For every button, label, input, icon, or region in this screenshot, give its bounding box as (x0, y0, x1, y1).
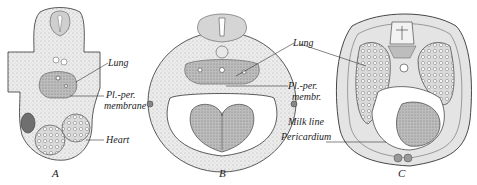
panel-letter-a: A (52, 167, 59, 179)
panel-letter-b: B (219, 167, 226, 179)
label-a-membrane: membrane (104, 101, 146, 111)
label-b-pericardium: Pericardium (281, 132, 331, 142)
label-b-membr: membr. (292, 92, 321, 102)
label-b-milk-line: Milk line (288, 117, 324, 127)
section-c-drawing (300, 14, 471, 166)
label-a-pl-per: Pl.-per. (106, 90, 135, 100)
label-a-heart: Heart (106, 135, 129, 145)
section-b-drawing (147, 14, 297, 172)
section-a-drawing (8, 8, 108, 161)
label-b-pl-per: Pl.-per. (288, 81, 317, 91)
embryo-cross-section-figure: Lung Pl.-per. membrane Heart A Lung Pl.-… (0, 0, 477, 185)
figure-drawing (0, 0, 477, 185)
label-a-lung: Lung (108, 58, 129, 68)
label-b-lung: Lung (293, 38, 314, 48)
panel-letter-c: C (398, 167, 405, 179)
